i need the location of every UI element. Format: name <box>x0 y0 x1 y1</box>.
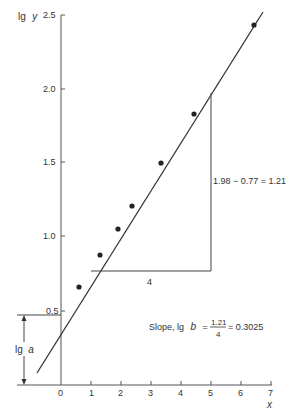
x-tick-label: 2 <box>118 388 123 398</box>
data-point <box>97 252 102 257</box>
arrow-down-icon <box>22 379 27 385</box>
x-tick-labels: 0 1 2 3 4 5 6 7 <box>58 388 273 398</box>
data-point <box>76 284 81 289</box>
slope-equation: Slope, lg b = 1.21 4 = 0.3025 <box>149 316 263 339</box>
x-tick-label: 0 <box>58 388 63 398</box>
data-point <box>158 160 163 165</box>
data-point <box>129 203 134 208</box>
rise-label: 1.98 − 0.77 = 1.21 <box>213 176 286 186</box>
y-tick-labels: 2.5 2.0 1.5 1.0 0.5 <box>43 10 59 316</box>
slope-numerator: 1.21 <box>211 318 227 327</box>
x-tick-label: 4 <box>178 388 183 398</box>
svg-text:Slope, lg b =: Slope, lg b = <box>149 316 208 333</box>
data-point <box>115 226 120 231</box>
data-point <box>251 22 256 27</box>
x-ticks <box>91 381 271 385</box>
data-points <box>76 22 256 289</box>
fitted-line <box>37 12 263 373</box>
y-ticks <box>61 15 65 311</box>
x-tick-label: 6 <box>238 388 243 398</box>
y-tick-label: 1.0 <box>43 231 56 241</box>
y-tick-label: 1.5 <box>43 157 56 167</box>
y-axis-title: lg y <box>18 6 38 23</box>
arrow-up-icon <box>22 315 27 321</box>
x-tick-label: 7 <box>268 388 273 398</box>
slope-denominator: 4 <box>216 330 221 339</box>
run-label: 4 <box>147 277 152 287</box>
intercept-label: lg a <box>15 339 34 356</box>
slope-triangle <box>91 93 211 271</box>
chart-canvas: 2.5 2.0 1.5 1.0 0.5 lg y 0 1 2 3 4 5 6 7… <box>0 0 303 415</box>
x-tick-label: 5 <box>208 388 213 398</box>
y-tick-label: 2.0 <box>43 84 56 94</box>
x-tick-label: 1 <box>89 388 94 398</box>
x-axis-title: x <box>266 399 273 410</box>
x-tick-label: 3 <box>148 388 153 398</box>
slope-result: = 0.3025 <box>228 322 263 332</box>
data-point <box>191 111 196 116</box>
y-tick-label: 2.5 <box>43 10 56 20</box>
